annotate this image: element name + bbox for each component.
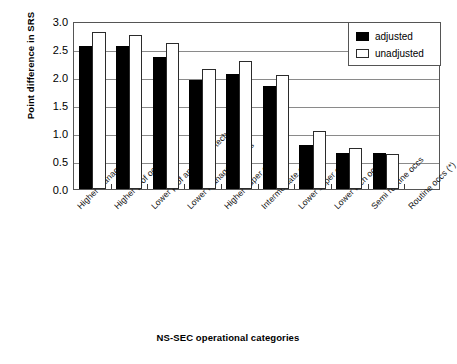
bar-unadjusted-6 <box>313 131 326 189</box>
x-axis-tick <box>184 184 185 189</box>
legend-label-unadjusted: unadjusted <box>375 48 424 59</box>
x-axis-tick <box>147 184 148 189</box>
y-axis-tick-label: 0.5 <box>26 156 68 168</box>
bar-unadjusted-8 <box>386 154 399 189</box>
bar-unadjusted-5 <box>276 75 289 189</box>
bar-unadjusted-2 <box>166 43 179 189</box>
bar-adjusted-8 <box>373 153 386 189</box>
x-axis-category-labels: Higher manag occsHigher prof occsLower p… <box>0 190 456 320</box>
legend-swatch-adjusted-icon <box>356 32 369 41</box>
bar-adjusted-4 <box>226 74 239 189</box>
bar-adjusted-3 <box>189 80 202 189</box>
legend-swatch-unadjusted-icon <box>356 49 369 58</box>
x-axis-tick <box>258 184 259 189</box>
bar-adjusted-1 <box>116 46 129 189</box>
bar-adjusted-5 <box>263 86 276 189</box>
legend-item-unadjusted: unadjusted <box>356 45 440 62</box>
x-axis-tick <box>331 184 332 189</box>
x-axis-tick <box>111 184 112 189</box>
bar-adjusted-2 <box>153 57 166 189</box>
bar-unadjusted-0 <box>92 32 105 189</box>
bar-adjusted-6 <box>299 145 312 189</box>
bar-adjusted-0 <box>79 46 92 189</box>
chart-legend: adjusted unadjusted <box>348 22 441 66</box>
x-axis-tick <box>221 184 222 189</box>
x-axis-tick <box>404 184 405 189</box>
bar-unadjusted-7 <box>349 148 362 189</box>
x-axis-title: NS-SEC operational categories <box>0 332 456 343</box>
bar-unadjusted-4 <box>239 61 252 189</box>
bar-adjusted-7 <box>336 153 349 189</box>
bar-unadjusted-1 <box>129 35 142 189</box>
legend-label-adjusted: adjusted <box>375 31 413 42</box>
y-axis-title: Point difference in SRS <box>25 0 36 146</box>
x-axis-tick <box>294 184 295 189</box>
bar-unadjusted-3 <box>202 69 215 189</box>
legend-item-adjusted: adjusted <box>356 28 440 45</box>
x-axis-tick <box>368 184 369 189</box>
